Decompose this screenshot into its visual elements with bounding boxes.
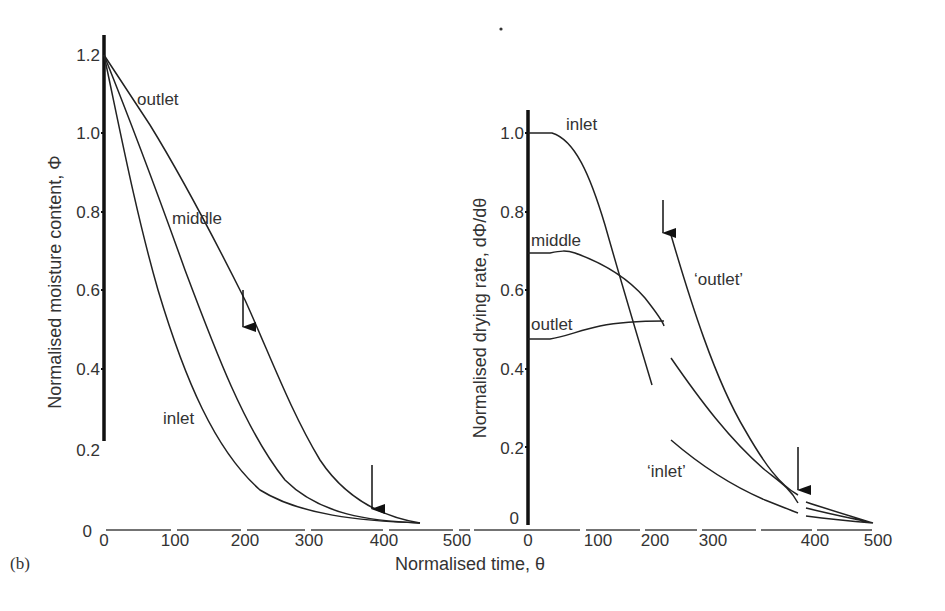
left-x-tick: 400 (370, 531, 398, 550)
label-outlet: outlet (137, 90, 179, 109)
left-y-axis-title: Normalised moisture content, Φ (45, 155, 65, 408)
curve-inlet-q (671, 440, 798, 513)
x-axis-title: Normalised time, θ (395, 554, 545, 574)
left-x-tick: 0 (99, 531, 108, 550)
curve-tails (806, 502, 873, 523)
right-x-tick: 100 (584, 531, 612, 550)
right-x-tick: 0 (523, 531, 532, 550)
label-outlet: outlet (531, 315, 573, 334)
right-x-tick: 500 (864, 531, 892, 550)
curve-middle-later (671, 358, 798, 503)
left-chart: 1.2 1.0 0.8 0.6 0.4 0.2 0 Normalised moi… (45, 35, 471, 550)
curve-inlet (104, 55, 420, 523)
label-middle: middle (172, 209, 222, 228)
left-x-tick: 500 (443, 531, 471, 550)
left-y-tick: 1.2 (76, 46, 100, 65)
right-y-tick: 0.6 (500, 281, 524, 300)
right-y-axis-title: Normalised drying rate, dΦ/dθ (470, 198, 490, 438)
left-y-tick: 0.6 (76, 281, 100, 300)
left-y-tick: 0.4 (76, 360, 100, 379)
left-y-tick: 0.8 (76, 203, 100, 222)
left-y-tick: 0 (83, 522, 92, 541)
curve-middle (104, 55, 420, 523)
right-y-tick: 0.2 (500, 439, 524, 458)
right-y-tick: 0 (510, 509, 519, 528)
right-y-tick: 0.8 (500, 203, 524, 222)
right-x-tick: 300 (699, 531, 727, 550)
left-x-tick: 300 (295, 531, 323, 550)
left-x-tick: 200 (231, 531, 259, 550)
panel-label: (b) (10, 554, 30, 573)
speck (499, 27, 502, 30)
label-middle: middle (531, 231, 581, 250)
label-outlet-quoted: ‘outlet’ (694, 270, 743, 289)
left-y-tick: 0.2 (76, 441, 100, 460)
figure: 1.2 1.0 0.8 0.6 0.4 0.2 0 Normalised moi… (0, 0, 945, 611)
label-inlet-quoted: ‘inlet’ (647, 462, 686, 481)
right-chart: 1.0 0.8 0.6 0.4 0.2 0 Normalised drying … (470, 110, 892, 550)
right-x-tick: 200 (641, 531, 669, 550)
label-inlet: inlet (163, 409, 194, 428)
right-x-tick: 400 (801, 531, 829, 550)
right-y-tick: 0.4 (500, 360, 524, 379)
right-y-tick: 1.0 (500, 124, 524, 143)
curve-outlet (104, 55, 420, 523)
label-inlet: inlet (566, 115, 597, 134)
left-y-tick: 1.0 (76, 124, 100, 143)
left-x-tick: 100 (161, 531, 189, 550)
